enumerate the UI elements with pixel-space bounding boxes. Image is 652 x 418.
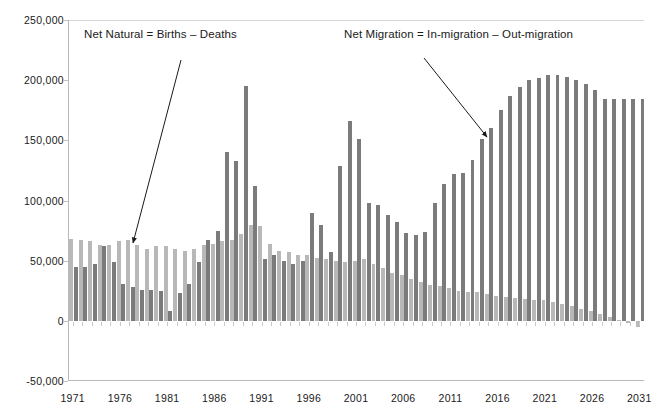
x-tick-mark — [611, 322, 612, 326]
bar — [164, 246, 168, 321]
bar — [183, 251, 187, 321]
x-tick-mark — [328, 322, 329, 326]
bar — [598, 314, 602, 321]
bar — [457, 291, 461, 321]
x-tick-mark — [639, 322, 640, 326]
bar — [268, 244, 272, 321]
x-tick-mark — [564, 322, 565, 326]
bar — [381, 268, 385, 321]
bar — [140, 290, 144, 321]
x-tick-label: 2006 — [391, 392, 416, 404]
x-tick-mark — [498, 322, 499, 326]
bar — [154, 246, 158, 321]
x-tick-mark — [460, 322, 461, 326]
bar — [603, 99, 607, 320]
y-tick-label: 150,000 — [4, 134, 64, 146]
bar — [589, 311, 593, 321]
bar — [428, 285, 432, 321]
bar — [159, 291, 163, 321]
x-tick-mark — [167, 322, 168, 326]
x-tick-label: 1976 — [108, 392, 133, 404]
bar — [334, 261, 338, 321]
bar — [438, 286, 442, 321]
x-tick-mark — [233, 322, 234, 326]
bar — [173, 249, 177, 321]
bar — [523, 299, 527, 321]
bar — [404, 233, 408, 321]
x-tick-mark — [318, 322, 319, 326]
bar — [282, 261, 286, 321]
x-tick-mark — [110, 322, 111, 326]
bar — [211, 244, 215, 321]
bar — [187, 284, 191, 321]
bar — [287, 252, 291, 321]
plot-area — [68, 20, 644, 381]
bar — [570, 306, 574, 320]
bar — [362, 259, 366, 320]
bar — [112, 262, 116, 321]
bar — [518, 87, 522, 320]
bar — [93, 264, 97, 321]
bar — [98, 245, 102, 321]
bar — [88, 241, 92, 320]
x-tick-mark — [620, 322, 621, 326]
x-tick-mark — [177, 322, 178, 326]
x-tick-mark — [375, 322, 376, 326]
x-tick-mark — [394, 322, 395, 326]
bar — [560, 304, 564, 321]
bar — [551, 302, 555, 321]
x-tick-mark — [488, 322, 489, 326]
bar — [542, 300, 546, 320]
bar — [149, 290, 153, 321]
y-axis: 250,000200,000150,000100,00050,0000-50,0… — [0, 0, 64, 418]
x-tick-mark — [441, 322, 442, 326]
x-tick-mark — [252, 322, 253, 326]
bar — [117, 241, 121, 320]
x-tick-mark — [479, 322, 480, 326]
bar — [126, 240, 130, 321]
bar — [574, 80, 578, 321]
bar — [532, 300, 536, 320]
x-tick-mark — [517, 322, 518, 326]
bar — [390, 273, 394, 321]
bar — [480, 139, 484, 321]
bar — [622, 99, 626, 320]
bar — [376, 205, 380, 321]
bar — [452, 174, 456, 321]
x-tick-mark — [545, 322, 546, 326]
bar — [206, 240, 210, 321]
bar — [475, 292, 479, 321]
x-tick-mark — [347, 322, 348, 326]
x-tick-label: 2001 — [344, 392, 369, 404]
bar — [102, 246, 106, 321]
bar — [423, 232, 427, 321]
bar — [612, 99, 616, 320]
bar — [301, 261, 305, 321]
x-tick-label: 2011 — [439, 392, 463, 404]
x-tick-mark — [403, 322, 404, 326]
bar — [367, 203, 371, 321]
x-tick-mark — [422, 322, 423, 326]
x-tick-mark — [583, 322, 584, 326]
x-tick-mark — [243, 322, 244, 326]
bar — [310, 213, 314, 321]
x-tick-mark — [224, 322, 225, 326]
bar — [107, 245, 111, 321]
x-tick-mark — [309, 322, 310, 326]
bar — [466, 292, 470, 321]
x-axis-tick-marks — [68, 321, 644, 326]
bar — [485, 294, 489, 320]
bar — [230, 240, 234, 321]
bar — [584, 84, 588, 321]
bar — [178, 293, 182, 321]
bar — [329, 252, 333, 321]
bar — [239, 234, 243, 321]
x-tick-mark — [82, 322, 83, 326]
x-tick-mark — [384, 322, 385, 326]
bar — [414, 235, 418, 320]
x-tick-label: 2021 — [533, 392, 558, 404]
bar — [513, 298, 517, 321]
x-tick-mark — [356, 322, 357, 326]
bars-layer — [69, 20, 644, 380]
